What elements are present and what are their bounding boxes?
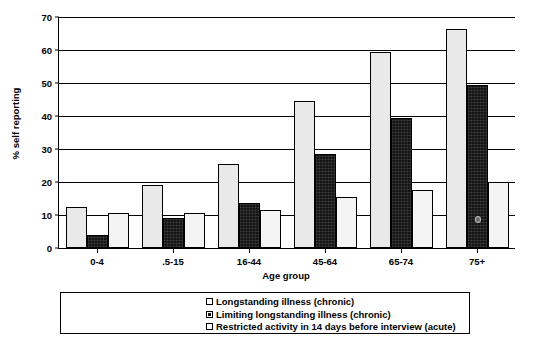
legend: Longstanding illness (chronic)Limiting l… (60, 292, 470, 334)
bar-series-3 (184, 213, 205, 248)
bar-series-2 (163, 218, 184, 248)
legend-item: Longstanding illness (chronic) (206, 296, 456, 308)
x-tick-label: 75+ (469, 256, 485, 267)
y-tick-label: 0 (47, 243, 52, 254)
x-tick-mark (97, 248, 98, 253)
bar-series-2 (315, 154, 336, 248)
x-tick-mark (477, 248, 478, 253)
bar-series-2 (239, 203, 260, 248)
plot-area: 010203040506070 0-4.5-1516-4445-6465-747… (58, 17, 515, 249)
y-tick-label: 30 (41, 144, 52, 155)
bar-series-1 (66, 207, 87, 248)
bar-series-3 (488, 182, 509, 248)
x-tick-mark (249, 248, 250, 253)
bar-group: 0-4 (59, 17, 135, 248)
bar-series-3 (412, 190, 433, 248)
bar-group: 75+ (439, 17, 515, 248)
bar-series-3 (336, 197, 357, 248)
bar-group: .5-15 (135, 17, 211, 248)
bar-series-3 (260, 210, 281, 248)
y-tick-label: 10 (41, 210, 52, 221)
legend-swatch-icon (206, 311, 213, 318)
legend-label: Restricted activity in 14 days before in… (216, 321, 456, 332)
y-tick-label: 60 (41, 45, 52, 56)
bar-groups: 0-4.5-1516-4445-6465-7475+ (59, 17, 515, 248)
legend-swatch-icon (206, 323, 213, 330)
bar-chart: % self reporting 010203040506070 0-4.5-1… (0, 0, 536, 342)
bar-series-1 (370, 52, 391, 248)
bar-group: 45-64 (287, 17, 363, 248)
x-tick-label: 16-44 (237, 256, 261, 267)
x-tick-mark (401, 248, 402, 253)
bar-series-3 (108, 213, 129, 248)
y-tick-label: 20 (41, 177, 52, 188)
y-tick-label: 50 (41, 78, 52, 89)
x-tick-label: 65-74 (389, 256, 413, 267)
x-axis-title: Age group (58, 270, 514, 281)
bar-series-1 (294, 101, 315, 248)
scan-artifact (475, 216, 481, 223)
y-tick-label: 70 (41, 12, 52, 23)
x-tick-label: 45-64 (313, 256, 337, 267)
x-tick-mark (173, 248, 174, 253)
legend-swatch-icon (206, 298, 213, 305)
legend-label: Longstanding illness (chronic) (216, 296, 354, 307)
legend-item: Limiting longstanding illness (chronic) (206, 309, 456, 321)
x-tick-label: 0-4 (90, 256, 104, 267)
bar-group: 65-74 (363, 17, 439, 248)
legend-item: Restricted activity in 14 days before in… (206, 321, 456, 333)
bar-series-1 (142, 185, 163, 248)
bar-group: 16-44 (211, 17, 287, 248)
y-axis-title: % self reporting (10, 59, 21, 189)
legend-label: Limiting longstanding illness (chronic) (216, 309, 391, 320)
bar-series-1 (218, 164, 239, 248)
y-tick-label: 40 (41, 111, 52, 122)
bar-series-2 (391, 118, 412, 248)
x-tick-mark (325, 248, 326, 253)
legend-items: Longstanding illness (chronic)Limiting l… (206, 296, 456, 333)
x-tick-label: .5-15 (162, 256, 184, 267)
bar-series-2 (87, 235, 108, 248)
bar-series-1 (446, 29, 467, 248)
bar-series-2 (467, 85, 488, 248)
